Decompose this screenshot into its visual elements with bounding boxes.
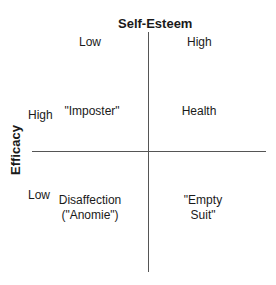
- quadrant-top-right: Health: [182, 104, 217, 119]
- horizontal-axis-line: [32, 151, 266, 152]
- quadrant-bottom-left: Disaffection ("Anomie"): [59, 193, 121, 223]
- y-axis-title: Efficacy: [8, 125, 23, 175]
- quadrant-label: "Imposter": [64, 104, 119, 119]
- y-axis-low-label: Low: [28, 188, 50, 202]
- quadrant-top-left: "Imposter": [64, 104, 119, 119]
- quadrant-label: "Empty: [184, 193, 222, 208]
- quadrant-label: Health: [182, 104, 217, 119]
- quadrant-bottom-right: "Empty Suit": [184, 193, 222, 223]
- quadrant-label: Disaffection: [59, 193, 121, 208]
- y-axis-high-label: High: [28, 108, 53, 122]
- x-axis-title: Self-Esteem: [118, 16, 192, 31]
- quadrant-label: Suit": [184, 208, 222, 223]
- quadrant-label: ("Anomie"): [59, 208, 121, 223]
- x-axis-high-label: High: [187, 35, 212, 49]
- vertical-axis-line: [148, 32, 149, 272]
- x-axis-low-label: Low: [79, 35, 101, 49]
